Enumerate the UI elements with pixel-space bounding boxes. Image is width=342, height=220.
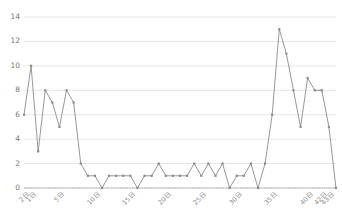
data-point-marker <box>143 175 145 177</box>
data-point-marker <box>221 162 223 164</box>
data-point-marker <box>37 150 39 152</box>
data-point-marker <box>214 175 216 177</box>
data-point-marker <box>307 77 309 79</box>
line-chart: 02468101214 2日1日5日10日15日20日25日30日35日40日4… <box>0 0 342 220</box>
data-point-marker <box>285 53 287 55</box>
data-point-marker <box>243 175 245 177</box>
data-point-marker <box>271 114 273 116</box>
data-point-marker <box>129 175 131 177</box>
data-point-marker <box>115 175 117 177</box>
data-point-marker <box>250 162 252 164</box>
data-point-marker <box>87 175 89 177</box>
data-point-marker <box>122 175 124 177</box>
data-point-marker <box>292 89 294 91</box>
data-point-marker <box>30 65 32 67</box>
chart-plot-area <box>0 0 342 220</box>
y-axis-tick-label: 12 <box>0 37 20 45</box>
data-point-marker <box>321 89 323 91</box>
y-axis-tick-label: 6 <box>0 111 20 119</box>
data-point-marker <box>158 162 160 164</box>
data-line-series-1 <box>24 29 336 188</box>
y-axis-tick-label: 2 <box>0 160 20 168</box>
data-point-marker <box>264 162 266 164</box>
data-point-marker <box>73 101 75 103</box>
data-point-marker <box>58 126 60 128</box>
data-point-marker <box>51 101 53 103</box>
data-point-marker <box>299 126 301 128</box>
data-point-marker <box>165 175 167 177</box>
data-point-marker <box>101 187 103 189</box>
data-point-marker <box>44 89 46 91</box>
y-axis-tick-label: 4 <box>0 135 20 143</box>
data-point-marker <box>229 187 231 189</box>
data-point-marker <box>236 175 238 177</box>
data-point-marker <box>136 187 138 189</box>
data-point-marker <box>108 175 110 177</box>
y-axis-tick-label: 10 <box>0 62 20 70</box>
data-point-marker <box>172 175 174 177</box>
data-point-marker <box>151 175 153 177</box>
data-point-marker <box>23 114 25 116</box>
data-point-marker <box>314 89 316 91</box>
data-point-marker <box>186 175 188 177</box>
y-axis-tick-label: 8 <box>0 86 20 94</box>
data-point-marker <box>257 187 259 189</box>
data-point-marker <box>94 175 96 177</box>
data-point-marker <box>193 162 195 164</box>
data-point-marker <box>179 175 181 177</box>
data-point-marker <box>65 89 67 91</box>
y-axis-tick-label: 0 <box>0 184 20 192</box>
y-axis-tick-label: 14 <box>0 13 20 21</box>
data-point-marker <box>80 162 82 164</box>
data-point-marker <box>328 126 330 128</box>
data-point-marker <box>278 28 280 30</box>
data-point-marker <box>200 175 202 177</box>
data-point-marker <box>207 162 209 164</box>
data-point-marker <box>335 187 337 189</box>
